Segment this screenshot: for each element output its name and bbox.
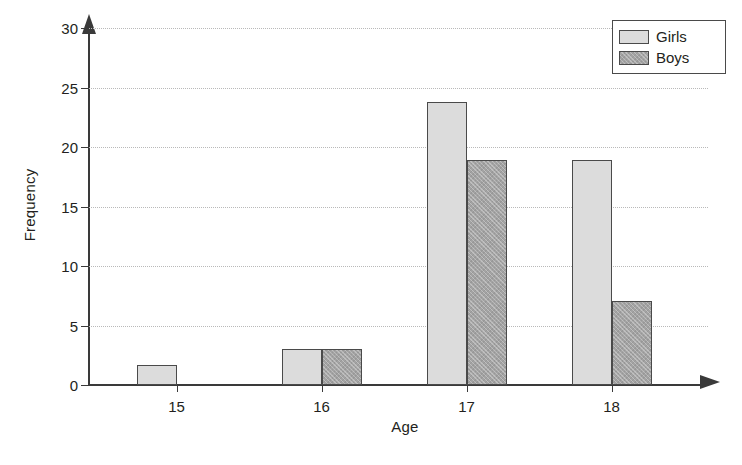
legend-item-girls[interactable]: Girls <box>619 27 719 47</box>
bar-girls-age-18 <box>572 160 612 385</box>
legend-swatch-boys-icon <box>619 51 649 65</box>
gridline <box>88 147 708 148</box>
bar-boys-age-18 <box>612 301 652 385</box>
x-tick-label: 16 <box>292 399 352 414</box>
legend-label-girls: Girls <box>656 29 687 44</box>
x-tick-mark <box>467 385 468 392</box>
bar-chart: Frequency Age 051015202530 15161718 Girl… <box>0 0 742 465</box>
y-tick-mark <box>81 385 89 386</box>
y-tick-label: 10 <box>38 259 78 274</box>
gridline <box>88 207 708 208</box>
y-tick-mark <box>81 207 89 208</box>
y-axis-title: Frequency <box>21 125 38 285</box>
y-tick-label: 0 <box>38 378 78 393</box>
gridline <box>88 266 708 267</box>
plot-area <box>88 28 708 385</box>
x-axis-title: Age <box>345 418 465 435</box>
y-tick-mark <box>81 147 89 148</box>
y-tick-mark <box>81 266 89 267</box>
bar-girls-age-16 <box>282 349 322 385</box>
x-tick-mark <box>612 385 613 392</box>
y-tick-mark <box>81 326 89 327</box>
y-tick-label: 25 <box>38 80 78 95</box>
bar-boys-age-17 <box>467 160 507 385</box>
y-tick-mark <box>81 88 89 89</box>
legend[interactable]: Girls Boys <box>612 20 726 74</box>
bar-girls-age-15 <box>137 365 177 385</box>
y-tick-mark <box>81 28 89 29</box>
x-tick-label: 15 <box>147 399 207 414</box>
legend-item-boys[interactable]: Boys <box>619 48 719 68</box>
y-tick-label: 5 <box>38 318 78 333</box>
legend-label-boys: Boys <box>656 50 689 65</box>
bar-boys-age-16 <box>322 349 362 385</box>
x-tick-label: 17 <box>437 399 497 414</box>
x-tick-label: 18 <box>582 399 642 414</box>
y-tick-label: 20 <box>38 140 78 155</box>
y-tick-label: 30 <box>38 21 78 36</box>
legend-swatch-girls-icon <box>619 30 649 44</box>
gridline <box>88 88 708 89</box>
x-tick-mark <box>322 385 323 392</box>
y-tick-label: 15 <box>38 199 78 214</box>
bar-girls-age-17 <box>427 102 467 385</box>
x-tick-mark <box>177 385 178 392</box>
